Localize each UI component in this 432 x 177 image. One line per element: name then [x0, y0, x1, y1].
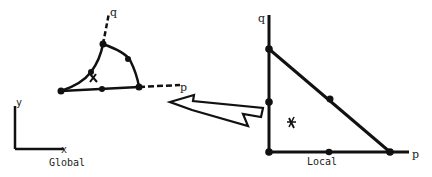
local-p-label: p — [412, 148, 419, 161]
local-element: q p Local — [258, 12, 419, 167]
local-label: Local — [307, 156, 337, 167]
isoparametric-mapping-diagram: y x Global q p q p — [0, 0, 432, 177]
local-q-label: q — [258, 12, 265, 25]
global-y-label: y — [16, 97, 22, 108]
mapping-arrow-icon — [170, 95, 263, 126]
global-p-label: p — [180, 81, 187, 94]
local-centroid-marker — [287, 117, 296, 128]
global-x-label: x — [61, 144, 67, 155]
global-axes: y x Global — [15, 97, 85, 168]
global-q-label: q — [110, 6, 117, 19]
global-element: q p — [58, 6, 188, 95]
global-label: Global — [49, 157, 85, 168]
global-centroid-marker — [90, 74, 97, 82]
